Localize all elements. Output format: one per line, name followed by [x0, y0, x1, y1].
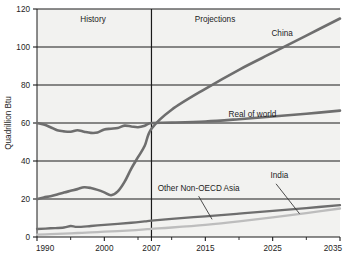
history-label: History	[80, 15, 106, 24]
y-axis-title: Quadrillion Btu	[4, 96, 13, 150]
y-tick-label-80: 80	[21, 81, 31, 90]
other-non-oecd-asia-label: Other Non-OECD Asia	[158, 184, 240, 193]
y-tick-label-0: 0	[25, 233, 30, 242]
x-axis-tick-labels: 199020002007201520252035	[36, 244, 342, 253]
x-tick-label-2035: 2035	[324, 244, 343, 253]
y-tick-label-40: 40	[21, 157, 31, 166]
projections-label: Projections	[195, 15, 236, 24]
chart-canvas: 020406080100120 199020002007201520252035…	[0, 0, 354, 258]
energy-consumption-chart: 020406080100120 199020002007201520252035…	[0, 0, 354, 258]
x-axis-tick-marks	[37, 237, 340, 241]
y-tick-label-120: 120	[16, 5, 30, 14]
y-axis-tick-labels: 020406080100120	[16, 5, 30, 242]
y-tick-label-60: 60	[21, 119, 31, 128]
x-tick-label-2015: 2015	[196, 244, 215, 253]
y-tick-label-20: 20	[21, 195, 31, 204]
y-tick-label-100: 100	[16, 43, 30, 52]
india-label: India	[271, 171, 289, 180]
x-tick-label-2007: 2007	[142, 244, 161, 253]
x-tick-label-2000: 2000	[95, 244, 114, 253]
china-label: China	[271, 29, 293, 38]
x-tick-label-2025: 2025	[264, 244, 283, 253]
x-tick-label-1990: 1990	[36, 244, 55, 253]
rest-of-world-label: Real of world	[229, 110, 277, 119]
